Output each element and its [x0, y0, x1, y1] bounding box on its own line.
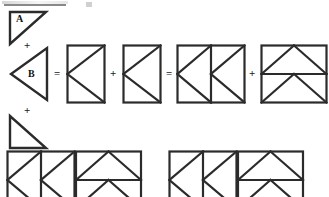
stacked-triangles-square: [260, 44, 328, 104]
k-rectangle-2: [122, 44, 162, 104]
bottom-right-group: [168, 150, 314, 197]
k-rectangle-1: [66, 44, 106, 104]
plus-operator-2: +: [110, 68, 116, 79]
plus-operator-3: +: [249, 68, 255, 79]
top-crop-artifact-3: [86, 2, 92, 7]
bottom-left-group: [6, 150, 152, 197]
diagram-canvas: A + B = + =: [0, 0, 329, 197]
triangle-a-bottom: [8, 114, 48, 150]
top-crop-artifact-2: [4, 4, 66, 6]
label-a-top: A: [16, 14, 23, 24]
double-k-square: [176, 44, 246, 104]
equals-operator-1: =: [54, 68, 60, 79]
equals-operator-2: =: [166, 68, 172, 79]
label-b: B: [28, 69, 35, 79]
